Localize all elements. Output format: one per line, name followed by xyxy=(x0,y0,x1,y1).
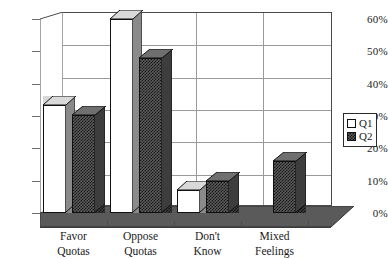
y-tick-label-10: 10% xyxy=(352,175,388,187)
bar-top-outline xyxy=(43,96,76,106)
x-label-line-1: Favor xyxy=(40,229,107,244)
x-label-line-2: Feelings xyxy=(241,244,308,259)
bar-side-face xyxy=(94,106,105,213)
gridline-40 xyxy=(63,78,331,79)
x-axis-baseline xyxy=(40,227,331,228)
bar-q1-dont-know xyxy=(177,190,200,213)
bar-side-face xyxy=(161,49,172,213)
legend-label-q2: Q2 xyxy=(359,131,372,142)
x-axis-label-dont-know: Don't Know xyxy=(174,229,241,259)
bar-q2-mixed-feelings xyxy=(273,161,296,213)
bar-front-face xyxy=(110,19,133,213)
bar-top-outline xyxy=(72,106,106,116)
y-tick-mark-30 xyxy=(32,116,40,117)
chart-legend: Q1 Q2 xyxy=(343,113,377,147)
legend-label-q1: Q1 xyxy=(359,118,372,129)
y-tick-mark-40 xyxy=(32,84,40,85)
x-label-line-2: Quotas xyxy=(40,244,107,259)
x-tick-1 xyxy=(107,221,108,227)
bar-q1-favor-quotas xyxy=(43,105,66,213)
legend-swatch-q2-icon xyxy=(347,132,356,141)
gridline-50 xyxy=(63,45,331,46)
x-axis-label-favor-quotas: Favor Quotas xyxy=(40,229,107,259)
bar-front-face xyxy=(206,181,229,213)
y-tick-mark-0 xyxy=(32,213,40,214)
x-label-line-2: Quotas xyxy=(107,244,174,259)
bar-q2-favor-quotas xyxy=(72,115,95,213)
gridline-cat-2 xyxy=(196,13,197,205)
bar-front-face xyxy=(139,58,162,213)
bar-front-face xyxy=(43,105,66,213)
y-tick-label-50: 50% xyxy=(352,45,388,57)
y-tick-mark-50 xyxy=(32,51,40,52)
gridline-cat-3 xyxy=(263,13,264,205)
bar-front-face xyxy=(273,161,296,213)
x-tick-2 xyxy=(174,221,175,227)
bar-top-outline xyxy=(273,152,307,162)
x-tick-0 xyxy=(40,221,41,227)
bar-front-face xyxy=(177,190,200,213)
bar-q2-dont-know xyxy=(206,181,229,213)
legend-item-q2: Q2 xyxy=(347,130,372,143)
legend-item-q1: Q1 xyxy=(347,117,372,130)
bar-front-face xyxy=(72,115,95,213)
x-axis-label-mixed-feelings: Mixed Feelings xyxy=(241,229,308,259)
y-tick-mark-60 xyxy=(32,19,40,20)
bar-top-outline xyxy=(139,49,173,59)
bar-q2-oppose-quotas xyxy=(139,58,162,213)
y-tick-label-0: 0% xyxy=(352,207,388,219)
x-label-line-1: Don't xyxy=(174,229,241,244)
bar-q1-oppose-quotas xyxy=(110,19,133,213)
x-tick-3 xyxy=(241,221,242,227)
x-label-line-1: Mixed xyxy=(241,229,308,244)
x-label-line-2: Know xyxy=(174,244,241,259)
x-axis-label-oppose-quotas: Oppose Quotas xyxy=(107,229,174,259)
bar-top-outline xyxy=(206,172,240,182)
bar-top-outline xyxy=(110,10,143,20)
y-tick-mark-10 xyxy=(32,181,40,182)
y-tick-label-40: 40% xyxy=(352,78,388,90)
y-tick-label-60: 60% xyxy=(352,13,388,25)
y-tick-mark-20 xyxy=(32,148,40,149)
legend-swatch-q1-icon xyxy=(347,119,356,128)
x-tick-4 xyxy=(308,221,309,227)
x-label-line-1: Oppose xyxy=(107,229,174,244)
